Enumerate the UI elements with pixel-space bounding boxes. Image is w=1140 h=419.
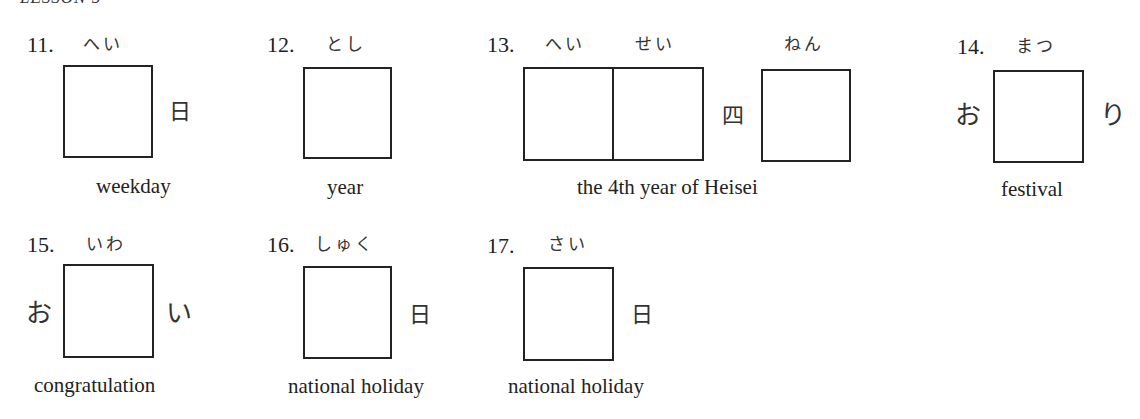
meaning-label: congratulation (34, 375, 155, 396)
prefix-kana: お (26, 300, 52, 326)
furigana: しゅく (315, 236, 375, 253)
kanji-answer-box[interactable] (993, 70, 1084, 163)
furigana: いわ (86, 236, 126, 253)
meaning-label: national holiday (288, 376, 424, 397)
item-number: 17. (487, 235, 515, 257)
lesson-header: LESSON 5 (20, 0, 101, 8)
suffix-kanji: 日 (169, 101, 191, 123)
furigana: さい (548, 236, 588, 253)
kanji-answer-box[interactable] (63, 65, 153, 158)
kanji-answer-box-2[interactable] (612, 67, 704, 161)
kanji-answer-box-3[interactable] (761, 69, 851, 162)
suffix-kana: い (166, 300, 192, 326)
furigana: へい (545, 36, 585, 53)
kanji-answer-box[interactable] (303, 266, 392, 359)
item-number: 12. (267, 34, 295, 56)
furigana: とし (326, 36, 366, 53)
suffix-kana: り (1100, 102, 1126, 128)
item-number: 16. (267, 234, 295, 256)
suffix-kanji: 日 (631, 304, 653, 326)
furigana: せい (635, 36, 675, 53)
middle-kanji: 四 (722, 105, 744, 127)
prefix-kana: お (955, 102, 981, 128)
furigana: まつ (1016, 38, 1056, 55)
kanji-answer-box[interactable] (523, 267, 614, 361)
furigana: へい (83, 36, 123, 53)
furigana: ねん (784, 36, 824, 53)
meaning-label: year (327, 177, 363, 198)
meaning-label: weekday (96, 176, 171, 197)
item-number: 13. (487, 34, 515, 56)
meaning-label: festival (1001, 179, 1063, 200)
item-number: 14. (957, 36, 985, 58)
kanji-answer-box[interactable] (63, 264, 154, 358)
kanji-answer-box-1[interactable] (523, 67, 615, 161)
meaning-label: national holiday (508, 376, 644, 397)
suffix-kanji: 日 (409, 304, 431, 326)
item-number: 15. (27, 234, 55, 256)
meaning-label: the 4th year of Heisei (577, 177, 758, 198)
kanji-answer-box[interactable] (303, 67, 392, 159)
item-number: 11. (27, 34, 54, 56)
